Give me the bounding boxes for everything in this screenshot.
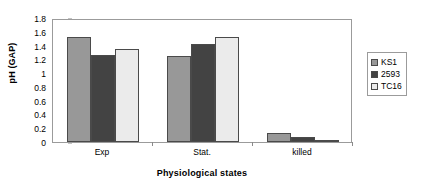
bar-ks1-stat [167, 56, 191, 142]
bar-tc16-stat [215, 37, 239, 142]
bar-group [167, 20, 239, 142]
legend-item-label: KS1 [381, 58, 397, 67]
legend-item: 2593 [371, 68, 402, 80]
x-tick-label: Stat. [193, 147, 210, 157]
bar-ks1-exp [67, 37, 91, 142]
y-axis-title: pH (GAP) [7, 23, 17, 103]
bar-group [67, 20, 139, 142]
bar-group [267, 20, 339, 142]
legend-item: TC16 [371, 80, 402, 92]
y-tick-label: 1.6 [34, 29, 46, 37]
bar-2593-killed [291, 137, 315, 143]
y-tick-label: 1.2 [34, 56, 46, 64]
y-axis-tick-labels: 00.20.40.60.811.21.41.61.8 [20, 19, 46, 143]
plot-area [52, 19, 352, 143]
y-tick-label: 0.6 [34, 98, 46, 106]
y-tick-label: 0.2 [34, 125, 46, 133]
legend-swatch-icon [371, 59, 378, 66]
x-axis-tick-labels: ExpStat.killed [52, 147, 352, 161]
y-tick-label: 0.4 [34, 111, 46, 119]
bar-2593-exp [91, 55, 115, 142]
legend-item-label: TC16 [381, 82, 402, 91]
bar-chart: pH (GAP) 00.20.40.60.811.21.41.61.8 ExpS… [0, 0, 429, 194]
y-tick-label: 1 [41, 70, 46, 78]
plot-inner [53, 20, 351, 142]
legend-swatch-icon [371, 83, 378, 90]
legend-swatch-icon [371, 71, 378, 78]
y-tick-label: 0.8 [34, 84, 46, 92]
y-tick-label: 1.8 [34, 15, 46, 23]
bar-ks1-killed [267, 133, 291, 142]
x-tick-mark [152, 142, 153, 146]
legend-item: KS1 [371, 56, 402, 68]
bar-2593-stat [191, 44, 215, 142]
x-tick-mark [352, 142, 353, 146]
bar-tc16-exp [115, 49, 139, 142]
x-tick-mark [252, 142, 253, 146]
legend: KS12593TC16 [367, 52, 407, 96]
bar-tc16-killed [315, 140, 339, 142]
x-tick-label: Exp [95, 147, 110, 157]
y-tick-label: 0 [41, 139, 46, 147]
legend-item-label: 2593 [381, 70, 400, 79]
y-tick-label: 1.4 [34, 43, 46, 51]
x-axis-title: Physiological states [52, 168, 352, 178]
x-tick-label: killed [292, 147, 311, 157]
